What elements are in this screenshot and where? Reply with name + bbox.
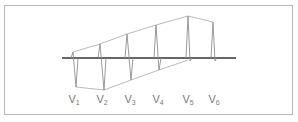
lead-label-v1: V1 — [68, 93, 79, 106]
lead-label-v6: V6 — [208, 93, 219, 106]
lead-label-v3: V3 — [124, 93, 135, 106]
lead-label-v2: V2 — [96, 93, 107, 106]
upper-envelope-line — [73, 16, 213, 52]
ecg-diagram — [0, 0, 298, 122]
complex-v4 — [154, 25, 161, 70]
complex-v3 — [125, 34, 133, 80]
complex-v1 — [71, 52, 78, 87]
lead-label-v5: V5 — [182, 93, 193, 106]
complex-v6 — [211, 22, 217, 61]
lead-label-v4: V4 — [152, 93, 163, 106]
complex-v2 — [98, 44, 106, 90]
complex-v5 — [186, 16, 192, 61]
